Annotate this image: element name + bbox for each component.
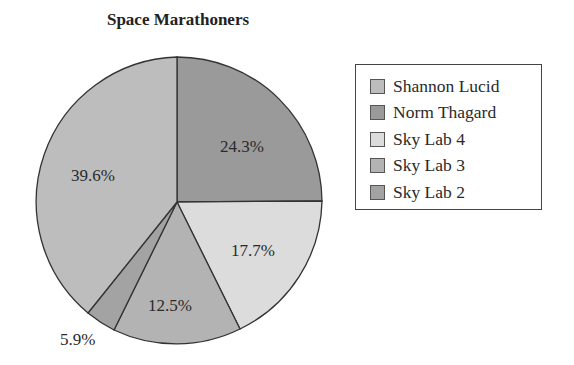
legend-label: Sky Lab 4 — [393, 129, 465, 150]
label-sky-lab-3: 12.5% — [148, 296, 192, 315]
legend-swatch-icon — [370, 185, 385, 200]
legend-item-sky-lab-4: Sky Lab 4 — [370, 126, 541, 153]
legend-label: Sky Lab 2 — [393, 182, 465, 203]
label-shannon-lucid: 39.6% — [71, 166, 115, 185]
legend-label: Sky Lab 3 — [393, 155, 465, 176]
legend-label: Shannon Lucid — [393, 76, 499, 97]
slice-norm-thagard — [177, 57, 322, 202]
label-norm-thagard: 24.3% — [220, 137, 264, 156]
legend-swatch-icon — [370, 79, 385, 94]
legend-swatch-icon — [370, 132, 385, 147]
label-sky-lab-2: 5.9% — [60, 330, 95, 349]
legend-item-sky-lab-2: Sky Lab 2 — [370, 179, 541, 206]
legend-item-norm-thagard: Norm Thagard — [370, 100, 541, 127]
legend-item-sky-lab-3: Sky Lab 3 — [370, 153, 541, 180]
legend-swatch-icon — [370, 158, 385, 173]
legend-swatch-icon — [370, 105, 385, 120]
label-sky-lab-4: 17.7% — [231, 241, 275, 260]
pie-chart: 24.3% 17.7% 12.5% 5.9% 39.6% — [0, 0, 360, 365]
legend: Shannon Lucid Norm Thagard Sky Lab 4 Sky… — [355, 64, 542, 210]
legend-label: Norm Thagard — [393, 102, 496, 123]
legend-item-shannon-lucid: Shannon Lucid — [370, 73, 541, 100]
